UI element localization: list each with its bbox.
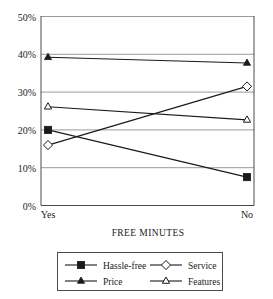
series-service-line xyxy=(48,86,247,145)
axis-frame xyxy=(41,16,254,206)
legend-item-price[interactable]: Price xyxy=(65,277,123,287)
y-tick-label-40: 40% xyxy=(18,49,36,60)
marker-price-no xyxy=(243,59,250,65)
legend-label-price: Price xyxy=(103,277,123,287)
x-axis-title: FREE MINUTES xyxy=(112,228,185,238)
series-hassle-free-line xyxy=(48,130,247,177)
x-axis-ticks: Yes No xyxy=(41,209,253,220)
legend-item-hassle-free[interactable]: Hassle-free xyxy=(65,261,146,271)
legend-label-service: Service xyxy=(188,261,217,271)
series-features-line xyxy=(48,107,247,120)
marker-features-no xyxy=(243,116,250,122)
marker-features-yes xyxy=(44,103,51,109)
y-tick-label-30: 30% xyxy=(18,87,36,98)
chart-container: 50% 40% 30% 20% 10% 0% xyxy=(0,0,273,299)
marker-service-yes xyxy=(43,141,52,150)
marker-hassle-free-yes xyxy=(44,126,51,133)
marker-service-no xyxy=(242,82,251,91)
legend: Hassle-free Service Price Features xyxy=(58,253,223,291)
legend-item-features[interactable]: Features xyxy=(150,277,220,287)
series-price-line xyxy=(48,57,247,63)
y-tick-label-20: 20% xyxy=(18,125,36,136)
x-tick-label-yes: Yes xyxy=(41,209,56,220)
series-features xyxy=(44,103,250,123)
series-price xyxy=(44,53,250,65)
legend-label-features: Features xyxy=(188,277,220,287)
gridlines xyxy=(41,17,254,168)
y-tick-label-0: 0% xyxy=(23,201,36,212)
line-chart: 50% 40% 30% 20% 10% 0% xyxy=(0,0,273,299)
x-tick-label-no: No xyxy=(241,209,253,220)
series-hassle-free xyxy=(44,126,250,180)
legend-item-service[interactable]: Service xyxy=(150,261,217,271)
y-tick-label-50: 50% xyxy=(18,12,36,23)
y-tick-label-10: 10% xyxy=(18,163,36,174)
legend-marker-open-triangle xyxy=(162,277,169,283)
marker-hassle-free-no xyxy=(243,174,250,181)
y-axis-ticks: 50% 40% 30% 20% 10% 0% xyxy=(18,12,36,212)
legend-marker-filled-triangle xyxy=(77,277,84,283)
legend-label-hassle-free: Hassle-free xyxy=(103,261,146,271)
legend-marker-open-diamond xyxy=(161,261,170,270)
legend-marker-filled-square xyxy=(77,261,84,268)
